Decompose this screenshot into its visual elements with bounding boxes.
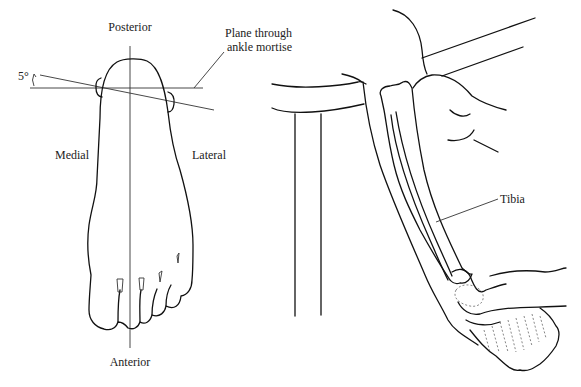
thigh-line-lower xyxy=(442,47,523,76)
label-tibia: Tibia xyxy=(500,192,526,206)
mortise-plane-line xyxy=(40,75,214,110)
label-medial: Medial xyxy=(55,148,90,162)
toenail xyxy=(177,253,179,263)
label-plane-line1: Plane through xyxy=(225,26,292,40)
knee-contour xyxy=(393,10,427,74)
foot-outline xyxy=(88,59,193,330)
figure-canvas: Posterior Anterior Medial Lateral Plane … xyxy=(0,0,581,387)
ankle-joint xyxy=(452,269,506,291)
table-lower-edge xyxy=(272,104,364,112)
thigh-line-upper xyxy=(422,18,535,58)
toe-line xyxy=(118,290,120,322)
toe-line xyxy=(166,285,171,306)
foot-bones-dashed xyxy=(484,314,546,352)
table-corner xyxy=(342,74,362,82)
foot-outline-right xyxy=(470,308,559,371)
foot-diagram: Posterior Anterior Medial Lateral Plane … xyxy=(18,20,292,369)
fibula-line xyxy=(391,115,448,280)
toenail xyxy=(139,278,144,290)
tibia-bone xyxy=(380,81,472,283)
table-top-edge xyxy=(272,82,366,87)
label-posterior: Posterior xyxy=(108,20,151,34)
plane-leader-line xyxy=(194,52,224,88)
label-angle: 5° xyxy=(18,69,29,83)
tibia-exam-illustration: Tibia xyxy=(272,10,566,371)
toe-line xyxy=(140,290,141,322)
upper-hand xyxy=(413,75,506,152)
angle-arc-icon xyxy=(33,74,35,86)
fibula-line xyxy=(396,112,452,276)
tibia-leader-line xyxy=(436,199,498,222)
toe-line xyxy=(152,289,157,315)
label-anterior: Anterior xyxy=(110,355,151,369)
toenail xyxy=(159,271,162,282)
label-lateral: Lateral xyxy=(192,148,227,162)
angle-arrow-icon xyxy=(34,74,36,77)
label-plane-line2: ankle mortise xyxy=(227,40,292,54)
